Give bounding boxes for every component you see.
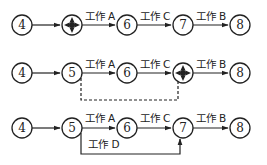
- row-1: 工作 A 工作 C 工作 B 4 6 7 8: [12, 10, 250, 35]
- node-label: 5: [68, 121, 76, 135]
- row-3: 工作 A 工作 C 工作 B 工作 D 4 5 6 7 8: [12, 112, 250, 154]
- edge-label-work-c: 工作 C: [140, 112, 171, 124]
- node-label: 4: [18, 18, 26, 32]
- edge-label-work-d: 工作 D: [88, 138, 119, 150]
- node-label: 6: [123, 121, 131, 135]
- node-label: 7: [179, 18, 187, 32]
- node-8: 8: [230, 63, 250, 83]
- node-5: 5: [62, 63, 82, 83]
- node-label: 8: [236, 18, 244, 32]
- merged-node-icon: [62, 15, 82, 35]
- node-4: 4: [12, 63, 32, 83]
- node-7: 7: [173, 118, 193, 138]
- edge-label-work-b: 工作 B: [196, 112, 227, 124]
- node-4: 4: [12, 15, 32, 35]
- node-8: 8: [230, 118, 250, 138]
- merged-node-icon: [173, 63, 193, 83]
- node-6: 6: [117, 118, 137, 138]
- edge-label-work-a: 工作 A: [85, 112, 116, 124]
- node-label: 6: [123, 18, 131, 32]
- edge-label-work-b: 工作 B: [196, 58, 227, 70]
- edge-label-work-a: 工作 A: [85, 10, 116, 22]
- edge-label-work-c: 工作 C: [140, 10, 171, 22]
- node-label: 5: [68, 66, 76, 80]
- node-6: 6: [117, 63, 137, 83]
- node-6: 6: [117, 15, 137, 35]
- node-label: 8: [236, 66, 244, 80]
- network-diagram: 工作 A 工作 C 工作 B 4 6 7 8 工作 A: [0, 0, 267, 165]
- node-5: 5: [62, 118, 82, 138]
- node-label: 8: [236, 121, 244, 135]
- edge-label-work-a: 工作 A: [85, 58, 116, 70]
- edge-label-work-b: 工作 B: [196, 10, 227, 22]
- node-4: 4: [12, 118, 32, 138]
- edge-label-work-c: 工作 C: [140, 58, 171, 70]
- node-8: 8: [230, 15, 250, 35]
- node-label: 6: [123, 66, 131, 80]
- row-2: 工作 A 工作 C 工作 B 4 5 6 8: [12, 58, 250, 100]
- node-label: 4: [18, 121, 26, 135]
- node-7: 7: [173, 15, 193, 35]
- node-label: 4: [18, 66, 26, 80]
- node-label: 7: [179, 121, 187, 135]
